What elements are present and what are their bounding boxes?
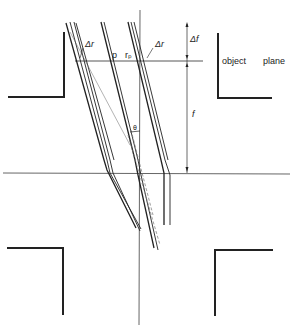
electron-optics-diagram: Δr p rₚ Δr Δf f θ object plane — [0, 0, 292, 331]
lens-plane-line — [3, 173, 290, 174]
delta-f-label: Δf — [189, 34, 200, 44]
f-label: f — [192, 109, 196, 119]
p-label: p — [112, 50, 117, 60]
arrow-down-icon — [186, 55, 189, 59]
delta-r-left-label: Δr — [84, 39, 95, 49]
arrow-down-icon — [186, 167, 189, 172]
arrow-up-icon — [186, 63, 189, 67]
upper-left-electrode — [8, 32, 64, 97]
plane-label: plane — [263, 56, 285, 66]
delta-r-right-leader — [147, 48, 153, 58]
arrow-up-icon — [186, 22, 189, 27]
lower-right-electrode — [215, 250, 273, 316]
object-label: object — [222, 56, 247, 66]
lower-left-electrode — [7, 248, 63, 315]
rp-label: rₚ — [125, 50, 132, 60]
theta-label: θ — [133, 124, 137, 131]
delta-r-right-label: Δr — [154, 39, 165, 49]
